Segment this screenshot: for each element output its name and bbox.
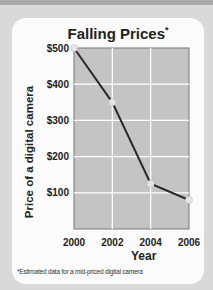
y-tick-label: $200 xyxy=(47,151,70,162)
data-point xyxy=(147,180,154,187)
y-tick-label: $100 xyxy=(47,187,70,198)
y-tick-label: $300 xyxy=(47,115,70,126)
x-tick-label: 2004 xyxy=(140,237,163,248)
x-tick-label: 2000 xyxy=(63,237,86,248)
x-tick-label: 2002 xyxy=(101,237,124,248)
x-tick-label: 2006 xyxy=(178,237,201,248)
data-point xyxy=(109,99,116,106)
data-point xyxy=(71,45,78,52)
y-tick-label: $400 xyxy=(47,79,70,90)
y-tick-label: $500 xyxy=(47,43,70,54)
data-point xyxy=(186,197,193,204)
plot-area: $100$200$300$400$5002000200220042006 xyxy=(0,0,213,290)
plot-background xyxy=(74,48,189,229)
